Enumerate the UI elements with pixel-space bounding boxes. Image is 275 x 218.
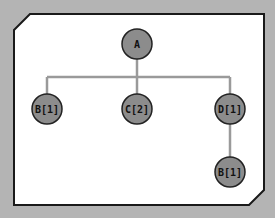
diagram-canvas: A B[1] C[2] D[1] B[1] xyxy=(0,0,275,218)
node-grandchild-b1: B[1] xyxy=(215,157,245,187)
node-label: D[1] xyxy=(218,104,242,115)
node-child-d1: D[1] xyxy=(215,94,245,124)
node-root: A xyxy=(122,29,152,59)
node-label: A xyxy=(134,39,140,50)
node-label: B[1] xyxy=(218,167,242,178)
node-child-b1: B[1] xyxy=(32,94,62,124)
node-label: B[1] xyxy=(35,104,59,115)
tree-diagram: A B[1] C[2] D[1] B[1] xyxy=(0,0,275,218)
node-child-c2: C[2] xyxy=(122,94,152,124)
node-label: C[2] xyxy=(125,104,149,115)
